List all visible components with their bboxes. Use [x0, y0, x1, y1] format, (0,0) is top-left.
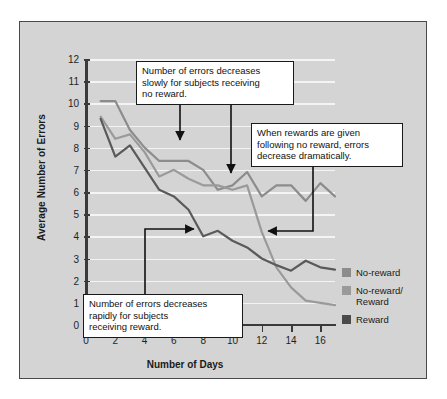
annotation-reward: Number of errors decreases rapidly for s…	[83, 294, 243, 338]
annotation-line: Number of errors decreases	[89, 298, 237, 310]
annotation-line: following no reward, errors	[257, 139, 397, 151]
annotation-line: When rewards are given	[257, 127, 397, 139]
legend-label: No-reward	[356, 267, 400, 278]
annotation-line: decrease dramatically.	[257, 150, 397, 162]
chart-legend: No-reward No-reward/ Reward Reward	[342, 267, 426, 332]
x-axis-tick-label: 16	[315, 335, 326, 346]
annotation-line: no reward.	[142, 88, 288, 100]
annotation-no-reward: Number of errors decreases slowly for su…	[136, 61, 294, 105]
y-axis-tick-label: 4	[73, 231, 79, 242]
x-axis-tick-label: 12	[256, 335, 267, 346]
legend-swatch-icon	[342, 315, 351, 324]
x-axis-tick	[262, 326, 264, 332]
y-axis-tick-label: 10	[68, 98, 79, 109]
legend-item-reward: Reward	[342, 314, 426, 325]
y-axis-tick-label: 7	[73, 164, 79, 175]
x-axis-tick	[291, 326, 293, 332]
annotation-reward-following-no-reward: When rewards are given following no rewa…	[251, 123, 403, 167]
legend-item-no-reward: No-reward	[342, 267, 426, 278]
annotation-line: Number of errors decreases	[142, 65, 288, 77]
legend-label: Reward	[356, 314, 389, 325]
y-axis-tick-label: 0	[73, 320, 79, 331]
x-axis-tick	[320, 326, 322, 332]
y-axis-tick-label: 1	[73, 297, 79, 308]
y-axis-title: Average Number of Errors	[36, 83, 47, 273]
x-axis-title: Number of Days	[20, 359, 350, 370]
legend-item-no-reward-reward: No-reward/ Reward	[342, 285, 426, 307]
annotation-line: rapidly for subjects	[89, 310, 237, 322]
y-axis-tick-label: 3	[73, 253, 79, 264]
annotation-line: receiving reward.	[89, 321, 237, 333]
y-axis-tick-label: 9	[73, 120, 79, 131]
y-axis-tick-label: 12	[68, 54, 79, 65]
legend-swatch-icon	[342, 286, 351, 295]
legend-label: No-reward/	[356, 285, 403, 296]
legend-label-second-line: Reward	[356, 296, 403, 307]
chart-figure: Average Number of Errors Number of Days …	[19, 21, 427, 379]
y-axis-tick-label: 8	[73, 142, 79, 153]
legend-swatch-icon	[342, 268, 351, 277]
y-axis-tick-label: 5	[73, 209, 79, 220]
y-axis-tick-label: 2	[73, 275, 79, 286]
y-axis-tick-label: 11	[69, 76, 79, 87]
y-axis-tick-label: 6	[73, 187, 79, 198]
x-axis-tick-label: 14	[285, 335, 296, 346]
annotation-line: slowly for subjects receiving	[142, 77, 288, 89]
